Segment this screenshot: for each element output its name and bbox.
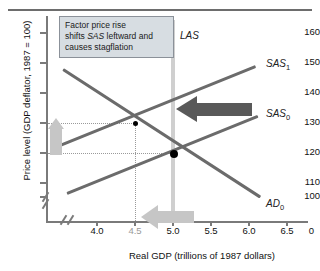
sas0-curve-label: SAS0: [266, 108, 290, 122]
x-axis-break-mark-2: [67, 215, 75, 225]
y-tick-140: [40, 92, 46, 94]
sas1-curve-label: SAS1: [266, 58, 290, 72]
price-level-arrow-shaft: [50, 128, 62, 155]
y-tick-160: [40, 32, 46, 34]
new-equilibrium-point: [133, 121, 138, 126]
y-tick-label-150: 150: [286, 57, 320, 67]
las-curve-label: LAS: [180, 30, 199, 41]
x-tick-label-4.0: 4.0: [77, 226, 117, 236]
x-tick-label-5.5: 5.5: [191, 226, 231, 236]
y-tick-label-100: 100: [286, 191, 320, 201]
y-tick-130: [40, 122, 46, 124]
y-tick-label-130: 130: [286, 117, 320, 127]
y-tick-110: [40, 182, 46, 184]
y-tick-label-120: 120: [286, 147, 320, 157]
x-axis-title: Real GDP (trillions of 1987 dollars): [88, 250, 316, 261]
annotation-line-1: Factor price rise: [65, 20, 169, 31]
figure-top-rule: [8, 9, 312, 11]
annotation-line-2-suffix: leftward and: [104, 31, 153, 41]
sas0-curve: [66, 115, 258, 195]
real-gdp-arrow-shaft: [158, 211, 194, 223]
ad0-label-text: AD: [266, 198, 280, 209]
sas1-label-subscript: 1: [286, 63, 290, 72]
y-tick-label-140: 140: [286, 87, 320, 97]
real-gdp-arrow-head: [141, 205, 158, 229]
price-level-arrow-head: [48, 118, 64, 129]
annotation-sas-emphasis: SAS: [87, 31, 104, 41]
stagflation-chart-figure: 160 150 140 130 120 110 100 0 4.0 4.5 5.…: [0, 0, 320, 271]
annotation-line-3: causes stagflation: [65, 42, 169, 53]
annotation-box: Factor price rise shifts SAS leftward an…: [59, 16, 174, 58]
y-tick-120: [40, 152, 46, 154]
y-tick-150: [40, 62, 46, 64]
x-tick-label-5.0: 5.0: [153, 226, 193, 236]
sas-shift-arrow-shaft: [196, 103, 252, 116]
y-tick-100: [40, 196, 46, 198]
y-tick-label-160: 160: [286, 27, 320, 37]
y-axis-title: Price level (GDP deflator, 1987 = 100): [21, 13, 32, 189]
guide-price-120: [48, 153, 174, 154]
x-tick-label-6.0: 6.0: [229, 226, 269, 236]
guide-gdp-4point5: [135, 123, 136, 221]
sas0-label-subscript: 0: [286, 113, 290, 122]
sas-shift-arrow-head: [176, 96, 197, 122]
sas0-label-text: SAS: [266, 108, 286, 119]
annotation-line-2-prefix: shifts: [65, 31, 87, 41]
initial-equilibrium-point: [170, 150, 178, 158]
sas1-label-text: SAS: [266, 58, 286, 69]
x-tick-label-6.5: 6.5: [267, 226, 307, 236]
annotation-line-2: shifts SAS leftward and: [65, 31, 169, 42]
ad0-curve-label: AD0: [266, 198, 284, 212]
ad0-label-subscript: 0: [280, 203, 284, 212]
y-tick-label-110: 110: [286, 177, 320, 187]
